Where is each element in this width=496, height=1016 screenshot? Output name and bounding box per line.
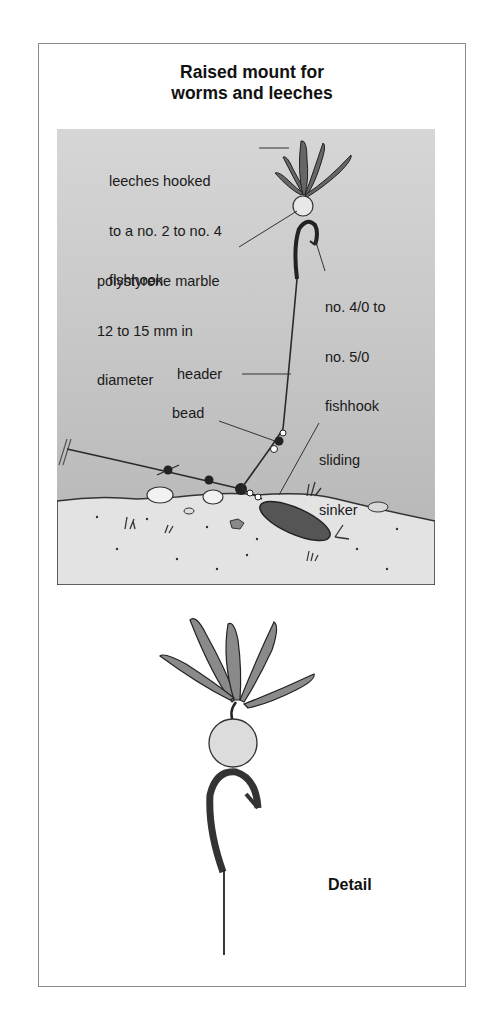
label-marble: polystyrene marble 12 to 15 mm in diamet… <box>97 240 220 422</box>
rock-icon <box>203 490 223 504</box>
callout-hook <box>315 239 325 271</box>
main-line <box>67 449 241 489</box>
leeches-icon <box>275 141 351 197</box>
rock-icon <box>147 487 173 503</box>
leader-line <box>241 279 297 489</box>
bead-icon <box>275 437 284 446</box>
rod-tip <box>59 439 71 465</box>
label-header: header <box>177 366 222 383</box>
rock-icon <box>368 502 388 512</box>
rock-icon <box>184 508 194 514</box>
title-line-2: worms and leeches <box>38 83 466 104</box>
polystyrene-marble-icon <box>293 196 313 216</box>
label-bead: bead <box>172 405 204 422</box>
callout-marble <box>239 211 297 247</box>
title-line-1: Raised mount for <box>38 62 466 83</box>
diagram-title: Raised mount for worms and leeches <box>38 62 466 104</box>
stopper-knot <box>164 466 173 475</box>
underwater-scene: leeches hooked to a no. 2 to no. 4 fishh… <box>57 129 435 585</box>
label-sinker: sliding sinker <box>319 419 360 551</box>
detail-label: Detail <box>328 876 372 894</box>
callout-bead <box>219 421 275 441</box>
stopper-knot <box>205 476 214 485</box>
hook-icon <box>295 222 317 279</box>
